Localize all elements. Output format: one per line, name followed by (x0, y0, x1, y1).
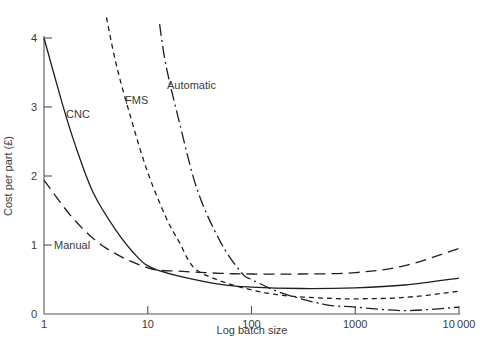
y-tick-label: 0 (31, 308, 37, 320)
label-manual: Manual (54, 239, 90, 251)
x-axis-title: Log batch size (217, 324, 288, 336)
x-tick-label: 1 (41, 318, 47, 330)
cost-vs-batch-chart: 01234 110100100010 000 Log batch size Co… (0, 0, 484, 354)
y-ticks: 01234 (31, 32, 52, 320)
curve-manual (44, 180, 459, 274)
x-tick-label: 10 000 (443, 318, 476, 330)
label-fms: FMS (125, 94, 148, 106)
y-tick-label: 3 (31, 101, 37, 113)
x-tick-label: 1000 (343, 318, 367, 330)
curve-automatic (160, 24, 459, 310)
y-tick-label: 4 (31, 32, 37, 44)
y-tick-label: 1 (31, 239, 37, 251)
label-automatic: Automatic (167, 79, 216, 91)
x-tick-label: 10 (142, 318, 154, 330)
curve-cnc (44, 38, 459, 289)
y-axis-title: Cost per part (£) (2, 136, 14, 216)
label-cnc: CNC (66, 108, 90, 120)
curve-fms (107, 17, 460, 299)
y-tick-label: 2 (31, 170, 37, 182)
curves (44, 17, 459, 310)
